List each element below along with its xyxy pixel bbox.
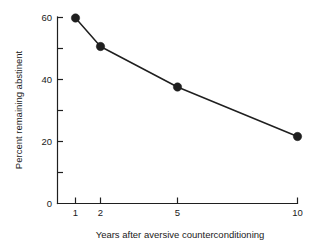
data-point-year-5[interactable] (173, 83, 181, 91)
x-tick-label-2: 2 (98, 207, 103, 218)
y-tick-label-60: 60 (41, 12, 52, 23)
y-tick-label-0: 0 (47, 198, 52, 209)
y-tick-label-20: 20 (41, 136, 52, 147)
data-point-year-1[interactable] (71, 14, 79, 22)
line-chart: 60 40 20 0 1 2 5 10 Years after aversive… (0, 0, 323, 245)
x-tick-label-1: 1 (73, 207, 78, 218)
data-point-year-10[interactable] (293, 132, 301, 140)
y-tick-label-40: 40 (41, 74, 52, 85)
data-point-year-2[interactable] (96, 42, 104, 50)
x-axis-title: Years after aversive counterconditioning (96, 229, 265, 240)
x-tick-label-10: 10 (292, 207, 303, 218)
x-tick-label-5: 5 (175, 207, 180, 218)
chart-figure: 60 40 20 0 1 2 5 10 Years after aversive… (0, 0, 323, 245)
y-axis-title: Percent remaining abstinent (13, 50, 24, 169)
